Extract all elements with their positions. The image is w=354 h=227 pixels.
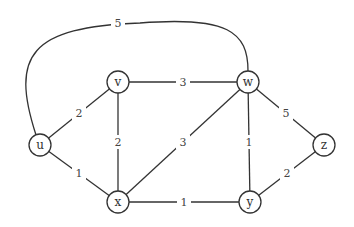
- svg-text:2: 2: [115, 136, 122, 149]
- edge-weight-v-w: 3: [176, 75, 190, 89]
- svg-text:2: 2: [284, 167, 291, 180]
- svg-text:u: u: [36, 138, 44, 152]
- node-y: y: [239, 191, 261, 213]
- edge-weight-w-y: 1: [242, 135, 256, 149]
- svg-text:y: y: [246, 195, 254, 209]
- edge-weight-labels: 5213231512: [72, 16, 294, 209]
- svg-text:3: 3: [180, 76, 187, 89]
- edge-weight-w-x: 3: [176, 135, 190, 149]
- svg-text:v: v: [114, 75, 122, 89]
- svg-text:3: 3: [180, 136, 187, 149]
- svg-text:5: 5: [283, 107, 290, 120]
- edge-weight-v-x: 2: [111, 135, 125, 149]
- edge-weight-w-z: 5: [279, 107, 293, 121]
- edge-weight-u-v: 2: [72, 107, 86, 121]
- svg-text:1: 1: [246, 136, 253, 149]
- svg-text:1: 1: [181, 196, 188, 209]
- edge-weight-u-x: 1: [72, 167, 86, 181]
- node-x: x: [107, 191, 129, 213]
- svg-text:z: z: [321, 138, 327, 152]
- svg-text:2: 2: [76, 107, 83, 120]
- node-z: z: [313, 134, 335, 156]
- svg-text:1: 1: [76, 167, 83, 180]
- node-v: v: [107, 71, 129, 93]
- edge-weight-y-z: 2: [280, 167, 294, 181]
- edge-weight-u-w: 5: [111, 16, 125, 30]
- node-w: w: [237, 71, 259, 93]
- graph-diagram: 5213231512 uvwxyz: [0, 0, 354, 227]
- svg-text:5: 5: [115, 17, 122, 30]
- edge-u-w: [26, 21, 248, 135]
- svg-text:w: w: [243, 75, 254, 89]
- svg-text:x: x: [115, 195, 122, 209]
- edge-weight-x-y: 1: [177, 195, 191, 209]
- node-u: u: [29, 134, 51, 156]
